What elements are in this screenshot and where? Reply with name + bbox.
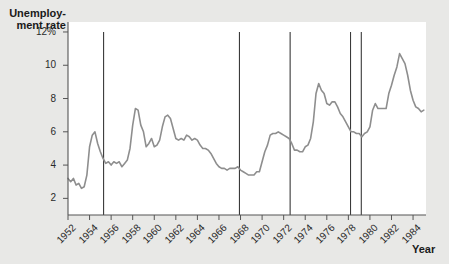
y-tick-label: 4: [26, 159, 56, 170]
y-tick-marks: [63, 32, 68, 198]
plot-background: [68, 22, 426, 215]
unemployment-rate-chart: Unemploy- ment rate Year 12%108642 19521…: [0, 0, 449, 264]
y-tick-label: 10: [26, 59, 56, 70]
y-tick-label: 8: [26, 93, 56, 104]
y-tick-label: 2: [26, 192, 56, 203]
y-tick-label: 12%: [26, 26, 56, 37]
x-tick-marks: [68, 215, 413, 220]
y-tick-label: 6: [26, 126, 56, 137]
